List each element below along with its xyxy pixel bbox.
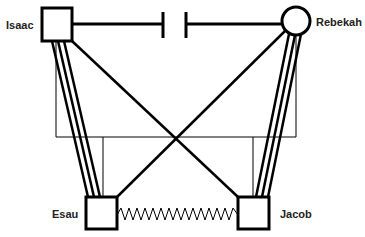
- esau-jacob-conflict-zigzag: [117, 208, 238, 220]
- esau-label: Esau: [52, 208, 78, 220]
- jacob-label: Jacob: [280, 208, 312, 220]
- rebekah-jacob-fused-lines: [256, 34, 301, 197]
- genogram-diagram: Isaac Rebekah Esau Jacob: [0, 0, 365, 237]
- jacob-male-square[interactable]: [238, 197, 269, 229]
- esau-male-square[interactable]: [86, 197, 117, 229]
- marriage-cutoff-line: [72, 12, 282, 38]
- isaac-label: Isaac: [6, 19, 34, 31]
- isaac-male-square[interactable]: [42, 8, 72, 41]
- genogram-canvas: [0, 0, 365, 237]
- rebekah-label: Rebekah: [316, 16, 362, 28]
- isaac-jacob-line: [72, 41, 238, 197]
- rebekah-female-circle[interactable]: [282, 7, 310, 35]
- isaac-esau-fused-lines: [52, 41, 100, 197]
